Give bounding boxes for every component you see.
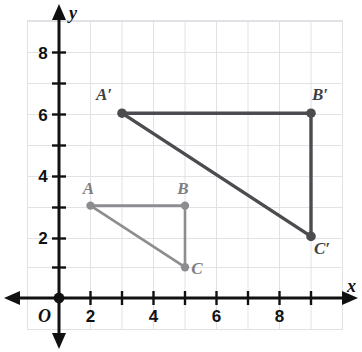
coordinate-grid-svg: 2 4 6 8 2 4 6 8 y x O A B C	[0, 0, 362, 352]
vertex-label-b-prime: B′	[311, 85, 328, 104]
vertex-point-a	[86, 201, 94, 209]
y-axis-label: y	[67, 3, 78, 23]
origin-point	[54, 293, 65, 304]
triangle-abc-outline	[91, 206, 186, 268]
y-tick-label-4: 4	[38, 167, 48, 186]
vertex-label-a-prime: A′	[95, 85, 112, 104]
vertex-point-b	[181, 201, 189, 209]
origin-label: O	[38, 306, 51, 326]
vertex-label-c-prime: C′	[314, 239, 330, 258]
x-tick-label-4: 4	[149, 307, 159, 326]
y-axis-arrow-down	[52, 333, 66, 349]
x-tick-label-2: 2	[86, 307, 95, 326]
y-tick-label-6: 6	[38, 106, 47, 125]
y-tick-label-8: 8	[38, 44, 47, 63]
grid-lines	[28, 20, 343, 330]
vertex-point-a-prime	[117, 108, 127, 118]
x-axis-arrow-left	[4, 291, 20, 305]
coordinate-plane-figure: 2 4 6 8 2 4 6 8 y x O A B C	[0, 0, 362, 352]
vertex-label-a: A	[82, 179, 94, 198]
vertex-point-c	[181, 263, 189, 271]
vertex-point-b-prime	[306, 108, 316, 118]
x-tick-label-8: 8	[275, 307, 284, 326]
x-tick-label-6: 6	[212, 307, 221, 326]
x-axis-label: x	[346, 276, 356, 296]
vertex-label-b: B	[176, 179, 188, 198]
vertex-label-c: C	[191, 259, 203, 278]
triangle-abc: A B C	[82, 179, 204, 279]
tick-labels: 2 4 6 8 2 4 6 8	[38, 44, 284, 327]
y-axis-arrow-up	[52, 4, 66, 20]
y-tick-label-2: 2	[38, 229, 47, 248]
